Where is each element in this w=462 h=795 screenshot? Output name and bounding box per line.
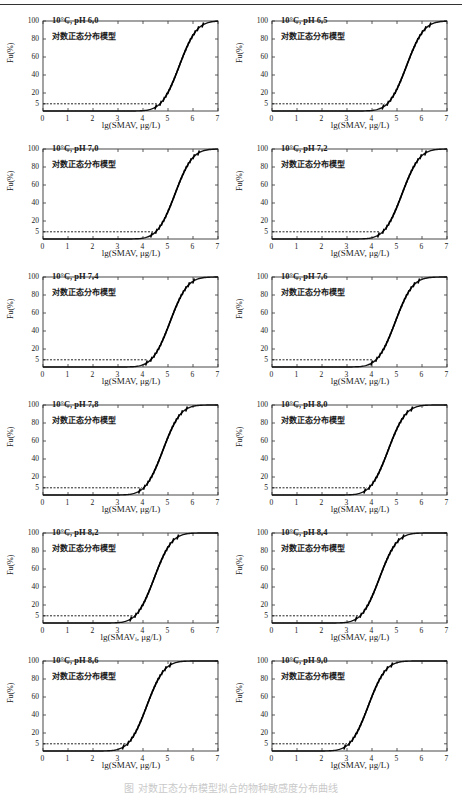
y-tick-label: 5	[35, 611, 39, 620]
panel-title: 10°C, pH 7.8	[52, 399, 98, 409]
y-tick-label: 80	[32, 546, 40, 555]
y-tick-label: 100	[28, 656, 39, 665]
x-axis-label: lg(SMAV, μg/L)	[0, 760, 262, 770]
y-tick-label: 100	[28, 528, 39, 537]
species-data-points	[130, 534, 179, 621]
y-tick-label: 80	[261, 674, 269, 683]
y-tick-label: 80	[32, 418, 40, 427]
y-tick-label: 60	[261, 52, 269, 61]
x-axis-label: lg(SMAVᵢ, μg/L)	[0, 632, 262, 642]
y-tick-label: 5	[35, 739, 39, 748]
y-tick-label: 20	[32, 472, 40, 481]
chart-panel: 1008060402050123456710°C, pH 8.0对数正态分布模型…	[229, 391, 460, 519]
y-tick-label: 40	[261, 70, 269, 79]
y-axis-label: Fu(%)	[235, 299, 244, 319]
y-tick-label: 20	[32, 88, 40, 97]
model-label: 对数正态分布模型	[281, 158, 345, 169]
y-tick-label: 80	[261, 546, 269, 555]
y-tick-label: 40	[32, 70, 40, 79]
y-tick-label: 40	[261, 454, 269, 463]
y-tick-label: 100	[28, 144, 39, 153]
y-tick-label: 20	[32, 728, 40, 737]
y-tick-label: 40	[261, 582, 269, 591]
y-tick-label: 40	[32, 582, 40, 591]
y-tick-label: 5	[264, 483, 268, 492]
x-axis-label: lg(SMAV, μg/L)	[229, 248, 462, 258]
y-tick-label: 100	[257, 528, 268, 537]
y-tick-label: 20	[261, 344, 269, 353]
y-tick-label: 5	[264, 355, 268, 364]
y-tick-label: 100	[257, 656, 268, 665]
y-tick-label: 20	[32, 600, 40, 609]
y-tick-label: 100	[257, 16, 268, 25]
y-tick-label: 20	[261, 216, 269, 225]
species-data-points	[155, 22, 204, 109]
chart-panel: 1008060402050123456710°C, pH 7.4对数正态分布模型…	[0, 263, 231, 391]
y-tick-label: 60	[32, 436, 40, 445]
panel-title: 10°C, pH 9.0	[281, 655, 327, 665]
y-axis-label: Fu(%)	[235, 555, 244, 575]
y-axis-label: Fu(%)	[235, 427, 244, 447]
x-axis-label: lg(SMAV, μg/L)	[0, 120, 262, 130]
species-data-points	[378, 150, 427, 237]
y-tick-label: 80	[261, 34, 269, 43]
chart-panel: 1008060402050123456710°C, pH 9.0对数正态分布模型…	[229, 647, 460, 775]
species-data-points	[122, 662, 171, 749]
y-axis-label: Fu(%)	[6, 555, 15, 575]
panel-title: 10°C, pH 8.0	[281, 399, 327, 409]
species-data-points	[371, 278, 420, 365]
chart-panel: 1008060402050123456710°C, pH 8.4对数正态分布模型…	[229, 519, 460, 647]
y-axis-label: Fu(%)	[6, 171, 15, 191]
species-data-points	[344, 662, 393, 749]
y-axis-label: Fu(%)	[235, 171, 244, 191]
chart-panel: 1008060402050123456710°C, pH 7.6对数正态分布模型…	[229, 263, 460, 391]
y-tick-label: 80	[32, 290, 40, 299]
y-tick-label: 80	[261, 162, 269, 171]
model-label: 对数正态分布模型	[52, 286, 116, 297]
model-label: 对数正态分布模型	[52, 30, 116, 41]
species-data-points	[139, 406, 188, 493]
x-axis-label: lg(SMAV, μg/L)	[0, 248, 262, 258]
y-tick-label: 80	[32, 674, 40, 683]
y-tick-label: 60	[32, 52, 40, 61]
x-axis-label: lg(SMAV, μg/L)	[229, 760, 462, 770]
y-tick-label: 20	[261, 88, 269, 97]
y-tick-label: 40	[32, 198, 40, 207]
x-axis-label: lg(SMAV, μg/L)	[229, 376, 462, 386]
y-tick-label: 60	[32, 308, 40, 317]
y-tick-label: 40	[32, 710, 40, 719]
model-label: 对数正态分布模型	[281, 542, 345, 553]
figure-caption: 图 对数正态分布模型拟合的物种敏感度分布曲线	[0, 780, 462, 795]
panel-title: 10°C, pH 8.4	[281, 527, 327, 537]
panel-title: 10°C, pH 7.6	[281, 271, 327, 281]
y-tick-label: 60	[32, 564, 40, 573]
y-tick-label: 20	[32, 344, 40, 353]
y-tick-label: 40	[32, 326, 40, 335]
x-axis-label: lg(SMAV, μg/L)	[229, 120, 462, 130]
panel-title: 10°C, pH 7.4	[52, 271, 98, 281]
y-tick-label: 100	[257, 272, 268, 281]
y-tick-label: 80	[32, 34, 40, 43]
x-axis-label: lg(SMAV, μg/L)	[229, 504, 462, 514]
panel-title: 10°C, pH 7.2	[281, 143, 327, 153]
y-tick-label: 5	[264, 611, 268, 620]
model-label: 对数正态分布模型	[281, 670, 345, 681]
x-axis-label: lg(SMAV, μg/L)	[229, 632, 462, 642]
y-tick-label: 100	[28, 16, 39, 25]
y-axis-label: Fu(%)	[6, 299, 15, 319]
species-data-points	[151, 150, 200, 237]
model-label: 对数正态分布模型	[281, 414, 345, 425]
y-axis-label: Fu(%)	[235, 683, 244, 703]
y-tick-label: 5	[35, 355, 39, 364]
y-tick-label: 60	[261, 564, 269, 573]
model-label: 对数正态分布模型	[52, 158, 116, 169]
y-tick-label: 20	[261, 472, 269, 481]
chart-panel: 1008060402050123456710°C, pH 8.2对数正态分布模型…	[0, 519, 231, 647]
species-data-points	[355, 534, 404, 621]
y-tick-label: 100	[257, 144, 268, 153]
model-label: 对数正态分布模型	[281, 30, 345, 41]
y-tick-label: 20	[261, 728, 269, 737]
chart-panel: 1008060402050123456710°C, pH 8.6对数正态分布模型…	[0, 647, 231, 775]
y-tick-label: 40	[261, 326, 269, 335]
